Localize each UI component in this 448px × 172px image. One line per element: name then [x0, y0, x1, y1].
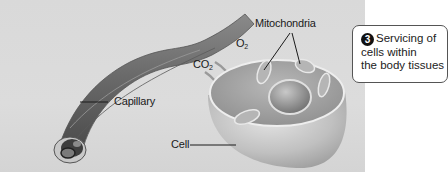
callout-line-1: 3Servicing of — [361, 32, 447, 46]
carbon-dioxide-label: CO2 — [193, 58, 213, 71]
callout-line-2: cells within — [361, 46, 447, 59]
cell-cross-section — [208, 57, 347, 168]
mitochondria-label: Mitochondria — [255, 17, 316, 29]
cell-label: Cell — [171, 138, 189, 150]
step-callout-box: 3Servicing of cells within the body tiss… — [352, 25, 448, 83]
step-number-badge: 3 — [361, 33, 374, 46]
capillary-label: Capillary — [114, 95, 155, 107]
callout-line-3: the body tissues — [361, 59, 447, 72]
oxygen-label: O2 — [236, 37, 248, 50]
